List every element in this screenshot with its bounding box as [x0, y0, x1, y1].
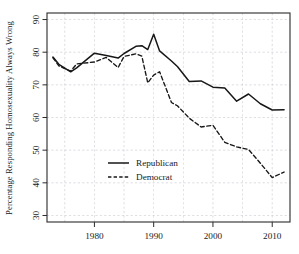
data-series: [53, 34, 284, 177]
y-tick-label: 70: [31, 80, 41, 90]
y-tick-label: 90: [31, 15, 41, 25]
x-tick-label: 1990: [144, 231, 163, 241]
y-tick-label: 80: [31, 47, 41, 57]
line-chart: 30405060708090 1980199020002010 Republic…: [0, 0, 299, 254]
legend-label-democrat: Democrat: [136, 172, 173, 182]
y-tick-label: 50: [31, 145, 41, 155]
x-tick-label: 2000: [204, 231, 223, 241]
y-axis-title: Percentage Responding Homosexuality Alwa…: [4, 21, 14, 215]
y-axis-tick-labels: 30405060708090: [31, 15, 41, 221]
x-tick-label: 2010: [263, 231, 282, 241]
axis-ticks: [43, 20, 273, 227]
x-axis-tick-labels: 1980199020002010: [85, 231, 282, 241]
y-tick-label: 30: [31, 210, 41, 220]
legend-label-republican: Republican: [136, 158, 178, 168]
chart-container: 30405060708090 1980199020002010 Republic…: [0, 0, 299, 254]
y-tick-label: 60: [31, 113, 41, 123]
chart-legend: RepublicanDemocrat: [108, 158, 178, 182]
x-tick-label: 1980: [85, 231, 104, 241]
y-tick-label: 40: [31, 178, 41, 188]
gridlines: [47, 13, 290, 222]
series-line-republican: [53, 34, 284, 110]
